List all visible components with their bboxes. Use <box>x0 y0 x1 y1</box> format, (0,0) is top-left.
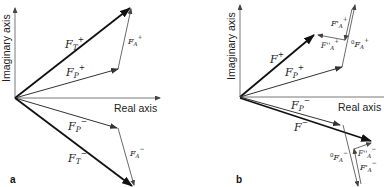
label-ft-plus: FT+ <box>64 35 84 52</box>
panel-label-a: a <box>10 174 16 185</box>
real-axis-label: Real axis <box>338 101 381 113</box>
vector-fp-minus <box>15 98 117 128</box>
phasor-diagram: Imaginary axis Real axis FT+ FP+ FA+ FP−… <box>0 0 384 187</box>
label-fp-minus: FP− <box>290 96 310 113</box>
vector-ft-plus <box>15 8 130 98</box>
vector-fp-minus <box>240 97 340 125</box>
label-fp-plus: FP+ <box>65 63 85 80</box>
label-ft-minus: FT− <box>67 149 87 166</box>
imaginary-axis-label: Imaginary axis <box>0 14 12 82</box>
panel-label-b: b <box>236 174 242 185</box>
panel-a: Imaginary axis Real axis FT+ FP+ FA+ FP−… <box>0 8 160 186</box>
label-f-plus: F+ <box>269 50 284 66</box>
label-0fa-minus: 0FA− <box>330 149 348 163</box>
label-f1a-minus: F'A− <box>359 159 377 173</box>
real-axis-label: Real axis <box>114 102 157 114</box>
label-0fa-plus: 0FA+ <box>351 36 369 50</box>
label-fp-minus: FP− <box>67 117 87 134</box>
label-f1a-plus: F'A+ <box>330 15 348 29</box>
imaginary-axis-label: Imaginary axis <box>225 12 237 80</box>
label-fp-plus: FP+ <box>284 63 304 80</box>
label-fa-minus: FA− <box>129 145 145 159</box>
label-fa-plus: FA+ <box>127 33 143 47</box>
label-f2a-plus: F''A+ <box>320 37 339 51</box>
vector-f2a-plus <box>318 35 345 40</box>
label-f-minus: F− <box>293 118 308 134</box>
panel-b: Imaginary axis Real axis F+ FP+ F'A+ F''… <box>225 5 384 186</box>
